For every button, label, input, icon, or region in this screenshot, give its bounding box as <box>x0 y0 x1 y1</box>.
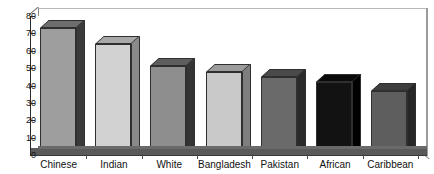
bar-side-face <box>297 69 306 155</box>
x-axis-label-caribbean: Caribbean <box>345 158 434 172</box>
x-axis-baseline <box>30 155 427 156</box>
bar-side-face <box>76 20 85 155</box>
x-axis-tick-mark <box>418 156 419 159</box>
bar-bangladesh[interactable] <box>206 72 242 155</box>
y-axis-tick-mark <box>31 51 35 52</box>
bar-indian[interactable] <box>95 44 131 155</box>
y-axis-tick-mark <box>31 16 35 17</box>
bar-pakistan[interactable] <box>261 77 297 155</box>
bar-chinese[interactable] <box>40 28 76 155</box>
y-axis-tick-mark <box>31 86 35 87</box>
bar-chart: 01020304050607080 ChineseIndianWhiteBang… <box>0 0 434 174</box>
bar-side-face <box>407 83 416 155</box>
bar-white[interactable] <box>150 66 186 155</box>
y-axis-tick-mark <box>31 120 35 121</box>
bar-side-face <box>352 74 361 155</box>
y-axis-tick-mark <box>31 68 35 69</box>
y-axis-tick-mark <box>31 138 35 139</box>
bar-side-face <box>186 58 195 155</box>
bar-side-face <box>242 64 251 155</box>
bar-side-face <box>131 36 140 155</box>
plot-floor-slab-top <box>38 146 427 149</box>
bar-african[interactable] <box>316 82 352 155</box>
y-axis-tick-mark <box>31 103 35 104</box>
y-axis-tick-mark <box>31 155 35 156</box>
y-axis-tick-mark <box>31 33 35 34</box>
